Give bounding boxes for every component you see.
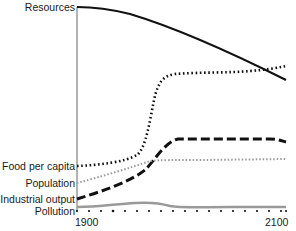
industrial-output-label: Industrial output <box>0 193 75 205</box>
resources-label: Resources <box>25 1 75 13</box>
x-axis-dots <box>76 210 287 213</box>
food-per-capita-line <box>77 66 286 166</box>
food-per-capita-label: Food per capita <box>2 160 75 172</box>
x-tick-1900: 1900 <box>75 216 98 228</box>
x-tick-2100: 2100 <box>265 216 288 228</box>
pollution-label: Pollution <box>35 205 75 217</box>
pollution-line <box>77 203 286 208</box>
resources-line <box>77 7 286 80</box>
industrial-output-line <box>77 139 286 199</box>
population-line <box>77 159 286 183</box>
population-label: Population <box>25 177 75 189</box>
